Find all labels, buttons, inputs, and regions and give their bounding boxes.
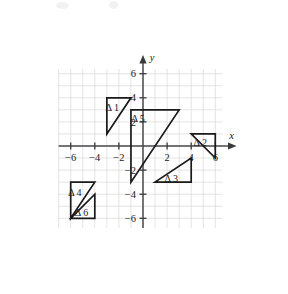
x-tick-label: −6 <box>65 152 76 163</box>
y-axis-arrow <box>139 55 146 64</box>
y-tick-label: −2 <box>125 165 136 176</box>
triangle-3-label: Δ 3 <box>165 173 178 184</box>
y-tick-label: −6 <box>125 213 136 224</box>
x-tick-label: −4 <box>89 152 101 163</box>
x-tick-label: 4 <box>189 152 195 163</box>
triangle-4-label: Δ 4 <box>68 187 81 198</box>
x-axis-arrow <box>228 142 237 149</box>
x-tick-label: 6 <box>213 152 218 163</box>
y-tick-label: −4 <box>125 189 137 200</box>
triangle-2-label: Δ 2 <box>194 137 207 148</box>
y-tick-label: 6 <box>131 68 136 79</box>
axes <box>59 55 237 228</box>
x-tick-label: −2 <box>113 152 124 163</box>
y-axis-label: y <box>149 52 155 63</box>
y-tick-label: 4 <box>131 92 137 103</box>
plot-canvas: −6−4−2246642−2−4−6 Δ 1Δ 2Δ 3Δ 4Δ 5Δ 6 xy <box>0 0 288 294</box>
grid-lines <box>59 69 223 228</box>
triangle-6-label: Δ 6 <box>75 207 88 218</box>
x-axis-label: x <box>228 130 234 141</box>
triangle-5-label: Δ 5 <box>131 113 144 124</box>
coordinate-plane-figure: −6−4−2246642−2−4−6 Δ 1Δ 2Δ 3Δ 4Δ 5Δ 6 xy <box>0 0 288 294</box>
x-tick-label: 2 <box>164 152 169 163</box>
triangle-1-label: Δ 1 <box>106 102 119 113</box>
